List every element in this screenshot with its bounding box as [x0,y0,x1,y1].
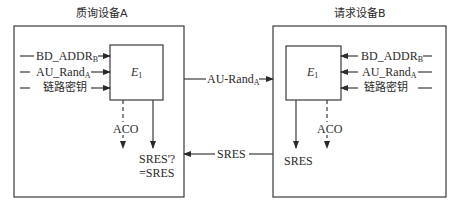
message-sres: SRES [217,148,246,160]
verifier-compare-line2: =SRES [139,167,174,179]
claimant-output-aco: ACO [317,123,342,135]
message-au-rand: AU-RandA [207,73,259,87]
claimant-input-bd-addr: BD_ADDRB [361,50,423,64]
verifier-input-link-key: 链路密钥 [43,82,87,93]
verifier-e1-label: E1 [131,66,142,80]
diagram-lines [0,0,456,210]
claimant-input-link-key: 链路密钥 [364,82,408,93]
claimant-title: 请求设备B [334,8,386,19]
verifier-input-bd-addr: BD_ADDRB [36,50,98,64]
claimant-e1-label: E1 [307,66,318,80]
verifier-output-aco: ACO [113,123,138,135]
verifier-title: 质询设备A [76,8,128,19]
verifier-compare-line1: SRES'? [139,153,175,165]
claimant-output-sres: SRES [284,155,313,167]
verifier-input-au-rand: AU_RandA [36,66,90,80]
claimant-input-au-rand: AU_RandA [362,66,416,80]
